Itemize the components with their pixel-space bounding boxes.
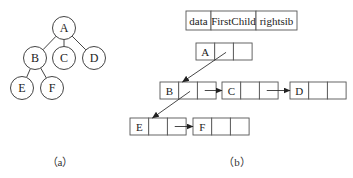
record-cell-rightsib — [230, 118, 249, 135]
tree-node-a: A — [53, 17, 76, 40]
record-cell-firstchild — [241, 82, 260, 99]
tree-edge-b-e — [27, 69, 31, 78]
record-cell-firstchild — [215, 43, 234, 60]
record-cell-firstchild — [309, 82, 328, 99]
tree-node-label: D — [90, 51, 99, 65]
tree-edge-a-d — [72, 36, 86, 50]
caption-b: （b） — [223, 156, 251, 168]
tree-nodes: ABCDEF — [11, 17, 106, 100]
tree-node-label: F — [49, 81, 56, 95]
tree-node-f: F — [41, 77, 64, 100]
record-cell-rightsib — [233, 43, 252, 60]
header-label-data: data — [189, 15, 207, 27]
record-data-label: D — [295, 85, 303, 97]
tree-node-b: B — [24, 47, 47, 70]
tree-node-e: E — [11, 77, 34, 100]
tree-node-label: E — [18, 81, 25, 95]
record-data-label: B — [166, 85, 173, 97]
list-record-a: A — [196, 43, 252, 60]
tree-node-c: C — [53, 47, 76, 70]
caption-a: （a） — [47, 156, 74, 168]
node-structure-header: data FirstChild rightsib — [186, 11, 297, 30]
list-record-f: F — [193, 118, 249, 135]
tree-edge-b-f — [41, 68, 47, 78]
record-data-label: A — [201, 46, 209, 58]
record-cell-firstchild — [212, 118, 231, 135]
tree-node-label: C — [60, 51, 68, 65]
child-sibling-list-diagram: data FirstChild rightsib ABCDEF （b） — [130, 11, 346, 168]
tree-edge-a-b — [43, 36, 56, 49]
record-cell-rightsib — [327, 82, 346, 99]
record-cell-firstchild — [179, 82, 198, 99]
record-cell-firstchild — [149, 118, 168, 135]
list-records: ABCDEF — [130, 43, 346, 135]
list-record-d: D — [290, 82, 346, 99]
header-label-rightsib: rightsib — [260, 15, 294, 27]
tree-diagram: ABCDEF （a） — [11, 17, 106, 169]
tree-node-label: A — [60, 21, 69, 35]
record-data-label: E — [136, 121, 143, 133]
tree-representation-diagram: ABCDEF （a） data FirstChild rightsib ABCD… — [0, 0, 353, 178]
record-data-label: F — [199, 121, 205, 133]
record-data-label: C — [228, 85, 235, 97]
tree-node-label: B — [31, 51, 39, 65]
tree-node-d: D — [83, 47, 106, 70]
header-label-firstchild: FirstChild — [211, 15, 256, 27]
